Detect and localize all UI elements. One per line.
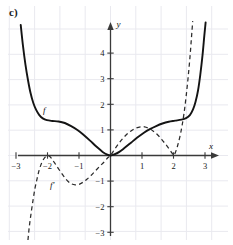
curve-labels: ff' — [43, 105, 55, 189]
figure-container: c) −3−2−11234321−1−2−3 ff' xy — [0, 0, 233, 245]
y-tick-label: 3 — [100, 74, 104, 84]
curve-f — [21, 22, 206, 155]
x-tick-label: −2 — [43, 161, 52, 171]
y-tick-label: 2 — [100, 100, 104, 110]
x-tick-label: 2 — [171, 161, 175, 171]
y-tick-label: 4 — [100, 48, 105, 58]
x-tick-label: −3 — [11, 161, 20, 171]
graph-plot: −3−2−11234321−1−2−3 ff' xy — [0, 0, 233, 245]
background-grid — [8, 6, 228, 240]
y-tick-label: −3 — [95, 228, 104, 238]
y-tick-label: −2 — [95, 202, 104, 212]
part-label: c) — [9, 6, 18, 18]
y-axis-label: y — [116, 19, 121, 29]
y-tick-label: −1 — [95, 176, 104, 186]
x-tick-label: −1 — [74, 161, 83, 171]
x-tick-label: 3 — [203, 161, 207, 171]
axis-tick-labels: −3−2−11234321−1−2−3 — [11, 48, 207, 237]
x-axis-label: x — [208, 141, 213, 151]
y-tick-label: 1 — [100, 125, 104, 135]
curve-label-f: f — [43, 105, 47, 115]
x-tick-label: 1 — [140, 161, 144, 171]
